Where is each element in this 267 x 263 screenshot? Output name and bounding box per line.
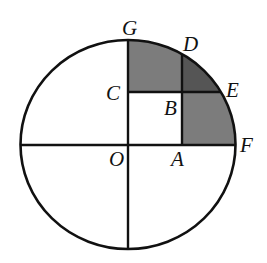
label-F: F [239, 133, 253, 157]
label-C: C [106, 81, 121, 105]
label-A: A [169, 147, 184, 171]
circle-square-diagram: G D E C B F O A [0, 0, 267, 263]
label-E: E [225, 78, 239, 102]
label-O: O [109, 147, 124, 171]
label-B: B [164, 96, 177, 120]
label-D: D [182, 32, 198, 56]
label-G: G [122, 16, 137, 40]
region-BDE [182, 55, 221, 92]
region-CGDB [128, 40, 182, 92]
